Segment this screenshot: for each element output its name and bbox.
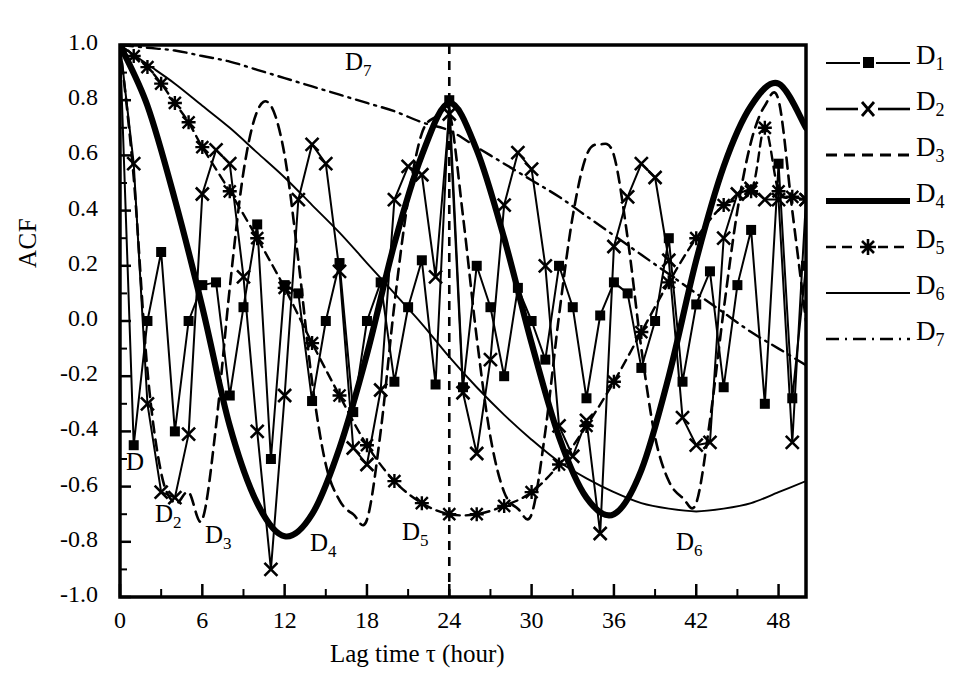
legend-item-d2[interactable]: D2: [824, 86, 967, 132]
x-tick-label: 12: [255, 607, 315, 634]
marker-d5: [360, 438, 374, 452]
marker-d1: [554, 261, 564, 271]
marker-d1: [732, 280, 742, 290]
legend-label-d3: D3: [916, 134, 945, 165]
marker-d1: [252, 219, 262, 229]
marker-d1: [691, 299, 701, 309]
marker-d1: [184, 316, 194, 326]
marker-d1: [746, 225, 756, 235]
x-tick-label: 0: [90, 607, 150, 634]
marker-d1: [623, 288, 633, 298]
y-tick-label: -1.0: [20, 581, 98, 608]
legend-sample-line-square: [824, 40, 912, 86]
legend-sample-dashed-star: [824, 224, 912, 270]
curve-label-d5: D5: [402, 518, 429, 551]
y-tick-label: -0.8: [20, 526, 98, 553]
marker-d5: [772, 184, 786, 198]
marker-d5: [662, 275, 676, 289]
legend-label-d4: D4: [916, 180, 945, 211]
marker-d1: [568, 302, 578, 312]
legend-item-d3[interactable]: D3: [824, 132, 967, 178]
marker-d5: [333, 389, 347, 403]
legend-sample-line-cross: [824, 86, 912, 132]
marker-d2: [621, 190, 634, 203]
x-tick-label: 6: [172, 607, 232, 634]
legend-label-d2: D2: [916, 88, 945, 119]
x-tick-label: 30: [502, 607, 562, 634]
marker-d2: [210, 143, 223, 156]
legend-label-d1: D1: [916, 42, 945, 73]
curve-label-d7: D7: [345, 48, 372, 81]
marker-d5: [305, 336, 319, 350]
marker-d2: [511, 146, 524, 159]
y-tick-label: 0.0: [20, 305, 98, 332]
marker-d1: [499, 371, 509, 381]
y-tick-label: 1.0: [20, 29, 98, 56]
marker-d5: [799, 193, 813, 207]
marker-d1: [595, 310, 605, 320]
marker-d1: [266, 454, 276, 464]
acf-chart: [0, 0, 967, 694]
marker-d2: [306, 138, 319, 151]
marker-d5: [442, 507, 456, 521]
y-tick-label: 0.2: [20, 250, 98, 277]
y-tick-label: 0.8: [20, 84, 98, 111]
marker-d5: [182, 115, 196, 129]
legend-sample-thin-solid: [824, 270, 912, 316]
y-tick-label: 0.4: [20, 195, 98, 222]
marker-d5: [154, 77, 168, 91]
legend-item-d1[interactable]: D1: [824, 40, 967, 86]
x-tick-label: 42: [666, 607, 726, 634]
marker-d1: [156, 247, 166, 257]
marker-d1: [760, 399, 770, 409]
curve-label-d6: D6: [676, 528, 703, 561]
plot-frame: [120, 45, 806, 597]
marker-d5: [223, 184, 237, 198]
legend-sample-thick-solid: [824, 178, 912, 224]
legend-sample-dashed: [824, 132, 912, 178]
marker-d2: [635, 157, 648, 170]
marker-d1: [540, 355, 550, 365]
marker-d1: [389, 377, 399, 387]
legend-item-d7[interactable]: D7: [824, 316, 967, 362]
marker-d5: [195, 140, 209, 154]
marker-d5: [689, 231, 703, 245]
legend-label-d5: D5: [916, 226, 945, 257]
x-tick-label: 18: [337, 607, 397, 634]
marker-d1: [170, 426, 180, 436]
marker-d5: [278, 281, 292, 295]
marker-d1: [211, 277, 221, 287]
y-tick-label: -0.6: [20, 471, 98, 498]
x-tick-label: 36: [584, 607, 644, 634]
marker-d1: [650, 316, 660, 326]
marker-d1: [609, 277, 619, 287]
y-tick-label: -0.2: [20, 360, 98, 387]
marker-d5: [387, 474, 401, 488]
legend-label-d7: D7: [916, 318, 945, 349]
legend-item-d6[interactable]: D6: [824, 270, 967, 316]
marker-d5: [497, 499, 511, 513]
legend-item-d5[interactable]: D5: [824, 224, 967, 270]
y-tick-label: -0.4: [20, 415, 98, 442]
marker-d5: [250, 231, 264, 245]
marker-d5: [470, 507, 484, 521]
marker-d1: [774, 159, 784, 169]
marker-d1: [362, 316, 372, 326]
marker-d1: [581, 393, 591, 403]
marker-d5: [579, 419, 593, 433]
marker-d5: [415, 496, 429, 510]
curve-label-d3: D3: [205, 521, 232, 554]
x-tick-label: 24: [419, 607, 479, 634]
marker-d5: [717, 198, 731, 212]
marker-d1: [225, 391, 235, 401]
marker-d1: [705, 266, 715, 276]
legend-item-d4[interactable]: D4: [824, 178, 967, 224]
marker-d1: [719, 382, 729, 392]
legend-sample-dash-dot: [824, 316, 912, 362]
marker-d1: [417, 255, 427, 265]
y-tick-label: 0.6: [20, 139, 98, 166]
marker-d5: [525, 485, 539, 499]
marker-d1: [431, 379, 441, 389]
marker-d5: [634, 325, 648, 339]
marker-d5: [168, 96, 182, 110]
